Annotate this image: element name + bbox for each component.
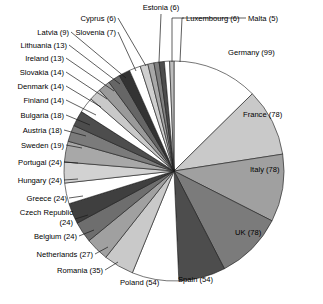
leader-line-estonia bbox=[159, 14, 161, 62]
leader-line-cyprus bbox=[118, 18, 146, 66]
pie-label-ireland: Ireland (13) bbox=[25, 54, 64, 63]
pie-label-germany: Germany (99) bbox=[228, 48, 275, 57]
pie-chart-svg: Germany (99)France (78)Italy (78)UK (78)… bbox=[0, 0, 323, 304]
pie-label-denmark: Denmark (14) bbox=[18, 82, 65, 91]
pie-label-slovakia: Slovakia (14) bbox=[20, 68, 65, 77]
leader-line-latvia bbox=[71, 32, 126, 78]
pie-label-austria: Austria (18) bbox=[23, 126, 63, 135]
pie-label-france: France (78) bbox=[243, 110, 283, 119]
pie-label-luxembourg: Luxembourg (6) bbox=[186, 14, 240, 23]
pie-label-hungary: Hungary (24) bbox=[18, 176, 63, 185]
leader-line-slovakia bbox=[66, 72, 107, 99]
pie-label-greece: Greece (24) bbox=[26, 194, 67, 203]
pie-label-czech-republic: Czech Republic bbox=[20, 208, 73, 217]
pie-label-poland: Poland (54) bbox=[120, 278, 160, 287]
pie-label-bulgaria: Bulgaria (18) bbox=[21, 111, 65, 120]
leader-line-slovenia bbox=[118, 32, 136, 71]
pie-label-czech-republic-value-line: (24) bbox=[59, 218, 73, 227]
pie-label-slovenia: Slovenia (7) bbox=[75, 28, 116, 37]
pie-label-spain: Spain (54) bbox=[178, 275, 214, 284]
pie-chart-figure: Germany (99)France (78)Italy (78)UK (78)… bbox=[0, 0, 323, 304]
pie-label-belgium: Belgium (24) bbox=[34, 232, 78, 241]
leader-line-luxembourg bbox=[172, 18, 184, 62]
leader-line-lithuania bbox=[69, 45, 120, 84]
pie-label-romania: Romania (35) bbox=[57, 266, 103, 275]
leader-line-ireland bbox=[66, 58, 114, 91]
pie-label-sweden: Sweden (19) bbox=[21, 141, 65, 150]
pie-label-latvia: Latvia (9) bbox=[37, 28, 69, 37]
leader-line-romania bbox=[105, 262, 118, 270]
pie-label-finland: Finland (14) bbox=[23, 96, 64, 105]
pie-label-portugal: Portugal (24) bbox=[18, 158, 62, 167]
pie-label-netherlands: Netherlands (27) bbox=[36, 250, 93, 259]
pie-label-lithuania: Lithuania (13) bbox=[21, 41, 68, 50]
pie-label-uk: UK (78) bbox=[235, 228, 262, 237]
pie-label-italy: Italy (78) bbox=[250, 165, 280, 174]
pie-label-malta: Malta (5) bbox=[248, 14, 278, 23]
pie-label-estonia: Estonia (6) bbox=[143, 3, 180, 12]
pie-label-cyprus: Cyprus (6) bbox=[81, 14, 117, 23]
